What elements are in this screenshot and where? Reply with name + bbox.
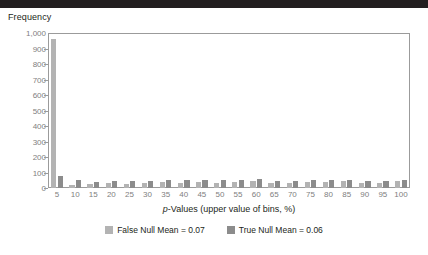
x-axis-tick-label: 5	[55, 190, 59, 199]
bar-group	[84, 33, 102, 188]
bar-true-null	[221, 180, 226, 188]
bar-group	[301, 33, 319, 188]
bar-false-null	[287, 183, 292, 188]
bars-layer	[48, 33, 410, 188]
bar-group	[283, 33, 301, 188]
x-axis-tick-label: 40	[179, 190, 188, 199]
bar-false-null	[87, 184, 92, 188]
chart-legend: False Null Mean = 0.07True Null Mean = 0…	[0, 225, 428, 235]
bar-true-null	[58, 176, 63, 188]
y-axis-tick-label: 700	[2, 75, 46, 84]
bar-false-null	[124, 184, 129, 188]
x-axis-labels: 5101520253035404550556065707580859095100	[48, 190, 410, 202]
bar-group	[374, 33, 392, 188]
x-axis-tick-label: 90	[360, 190, 369, 199]
bar-true-null	[293, 181, 298, 188]
bar-group	[229, 33, 247, 188]
legend-swatch-icon	[227, 226, 235, 234]
legend-item[interactable]: False Null Mean = 0.07	[105, 225, 205, 235]
bar-group	[175, 33, 193, 188]
x-axis-tick-label: 45	[197, 190, 206, 199]
bar-true-null	[402, 180, 407, 188]
bar-group	[247, 33, 265, 188]
top-rule-divider	[0, 0, 428, 8]
legend-item[interactable]: True Null Mean = 0.06	[227, 225, 323, 235]
x-axis-tick-label: 15	[89, 190, 98, 199]
y-axis-tick-label: 100	[2, 168, 46, 177]
y-axis-tick-label: 900	[2, 44, 46, 53]
bar-true-null	[130, 181, 135, 188]
bar-true-null	[184, 180, 189, 188]
x-axis-tick-label: 75	[306, 190, 315, 199]
bar-true-null	[148, 181, 153, 188]
bar-group	[66, 33, 84, 188]
y-axis-title: Frequency	[8, 12, 51, 22]
bar-true-null	[76, 180, 81, 188]
bar-false-null	[69, 185, 74, 188]
bar-group	[120, 33, 138, 188]
y-axis-tick-label: 600	[2, 91, 46, 100]
bar-true-null	[347, 180, 352, 188]
x-axis-tick-label: 50	[215, 190, 224, 199]
bar-group	[211, 33, 229, 188]
y-axis-tick-mark	[44, 188, 48, 189]
bar-false-null	[305, 182, 310, 189]
bar-false-null	[232, 182, 237, 188]
legend-label: False Null Mean = 0.07	[117, 225, 205, 235]
bar-group	[320, 33, 338, 188]
y-axis-tick-label: 300	[2, 137, 46, 146]
bar-group	[356, 33, 374, 188]
y-axis-tick-label: 0	[2, 184, 46, 193]
chart-figure: Frequency 1,0009008007006005004003002001…	[0, 0, 428, 255]
x-axis-tick-label: 20	[107, 190, 116, 199]
x-axis-tick-label: 60	[252, 190, 261, 199]
bar-group	[338, 33, 356, 188]
bar-false-null	[341, 181, 346, 188]
bar-true-null	[383, 181, 388, 188]
y-axis-labels: 1,0009008007006005004003002001000	[0, 33, 46, 188]
bar-false-null	[377, 183, 382, 188]
y-axis-tick-label: 500	[2, 106, 46, 115]
x-axis-tick-label: 70	[288, 190, 297, 199]
bar-true-null	[311, 180, 316, 188]
x-axis-title: p-Values (upper value of bins, %)	[48, 204, 410, 214]
x-axis-tick-label: 55	[234, 190, 243, 199]
bar-true-null	[365, 181, 370, 188]
x-axis-tick-label: 25	[125, 190, 134, 199]
x-axis-tick-label: 85	[342, 190, 351, 199]
y-axis-tick-label: 400	[2, 122, 46, 131]
bar-false-null	[395, 181, 400, 188]
bar-group	[193, 33, 211, 188]
bar-true-null	[329, 180, 334, 188]
bar-group	[265, 33, 283, 188]
legend-swatch-icon	[105, 226, 113, 234]
bar-false-null	[359, 183, 364, 188]
bar-true-null	[257, 179, 262, 188]
bar-false-null	[178, 183, 183, 188]
bar-false-null	[51, 39, 56, 188]
y-axis-tick-label: 200	[2, 153, 46, 162]
bar-false-null	[214, 183, 219, 188]
x-axis-tick-label: 10	[71, 190, 80, 199]
bar-false-null	[268, 183, 273, 188]
x-axis-title-italic-p: p	[163, 204, 168, 214]
legend-label: True Null Mean = 0.06	[239, 225, 323, 235]
bar-true-null	[166, 180, 171, 188]
bar-false-null	[142, 183, 147, 188]
bar-false-null	[106, 183, 111, 188]
y-axis-tick-label: 1,000	[2, 29, 46, 38]
bar-true-null	[94, 182, 99, 188]
y-axis-tick-label: 800	[2, 60, 46, 69]
bar-group	[139, 33, 157, 188]
bar-group	[392, 33, 410, 188]
bar-group	[48, 33, 66, 188]
bar-group	[157, 33, 175, 188]
x-axis-tick-label: 30	[143, 190, 152, 199]
x-axis-tick-label: 100	[394, 190, 407, 199]
bar-false-null	[323, 182, 328, 188]
x-axis-tick-label: 65	[270, 190, 279, 199]
x-axis-tick-label: 95	[378, 190, 387, 199]
bar-false-null	[250, 181, 255, 188]
bar-true-null	[202, 180, 207, 188]
x-axis-tick-label: 80	[324, 190, 333, 199]
